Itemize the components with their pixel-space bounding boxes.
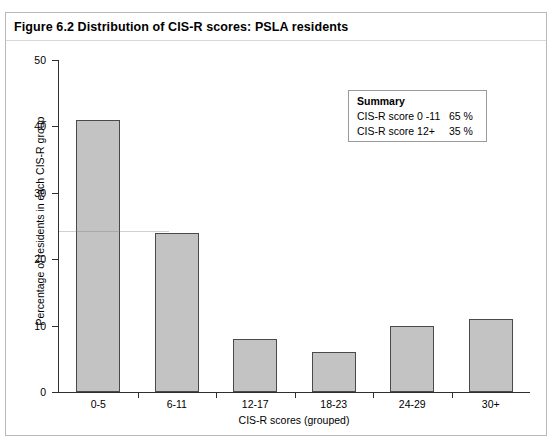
- y-tick-mark: [52, 259, 58, 260]
- y-axis-line: [58, 60, 59, 393]
- summary-row: CIS-R score 12+35 %: [357, 125, 473, 137]
- summary-row-label: CIS-R score 0 -11: [357, 110, 449, 122]
- x-tick-label: 0-5: [58, 398, 138, 410]
- summary-box: Summary CIS-R score 0 -1165 % CIS-R scor…: [348, 90, 487, 142]
- summary-row: CIS-R score 0 -1165 %: [357, 110, 473, 122]
- y-axis-title: Percentage of residents in each CIS-R gr…: [34, 61, 46, 381]
- x-tick-label: 30+: [451, 398, 531, 410]
- x-tick-label: 18-23: [294, 398, 374, 410]
- y-tick-label: 30: [6, 188, 46, 198]
- bar: [390, 326, 434, 392]
- y-tick-mark: [52, 326, 58, 327]
- x-tick-label: 6-11: [137, 398, 217, 410]
- x-tick-label: 24-29: [372, 398, 452, 410]
- y-tick-label: 20: [6, 254, 46, 264]
- y-tick-mark: [52, 126, 58, 127]
- bar: [469, 319, 513, 392]
- summary-row-label: CIS-R score 12+: [357, 125, 449, 137]
- y-tick-mark: [52, 60, 58, 61]
- bar: [76, 120, 120, 392]
- bar: [155, 233, 199, 392]
- y-tick-label: 50: [6, 55, 46, 65]
- bar-chart: Percentage of residents in each CIS-R gr…: [0, 0, 555, 445]
- y-tick-label: 10: [6, 321, 46, 331]
- y-tick-mark: [52, 193, 58, 194]
- x-axis-title: CIS-R scores (grouped): [58, 414, 530, 426]
- y-tick-mark: [52, 392, 58, 393]
- x-tick-label: 12-17: [215, 398, 295, 410]
- summary-row-value: 65 %: [449, 110, 473, 122]
- bar: [233, 339, 277, 392]
- summary-row-value: 35 %: [449, 125, 473, 137]
- y-tick-label: 0: [6, 387, 46, 397]
- summary-heading: Summary: [357, 95, 405, 107]
- bar: [312, 352, 356, 392]
- scan-artifact-line: [59, 231, 169, 232]
- y-tick-label: 40: [6, 121, 46, 131]
